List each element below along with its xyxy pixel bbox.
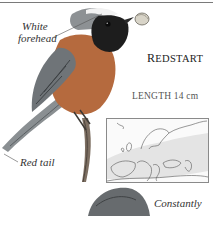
second-bird-caption: Constantly — [154, 197, 202, 209]
species-title: REDSTART — [147, 51, 203, 66]
red-tail-label: Red tail — [20, 156, 55, 168]
range-map — [106, 118, 209, 183]
europe-map-icon — [107, 119, 208, 182]
length-label: LENGTH 14 cm — [132, 91, 198, 101]
forehead-label-line2: forehead — [18, 32, 57, 44]
forehead-label-line1: White — [18, 20, 57, 32]
white-forehead-label: White forehead — [18, 20, 57, 44]
title-rest: EDSTART — [155, 53, 203, 64]
